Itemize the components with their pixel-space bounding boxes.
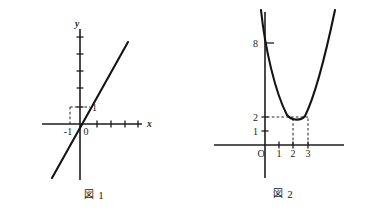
fig2-label-eight: 8 <box>253 38 258 49</box>
fig2-label-two-x: 2 <box>291 148 296 159</box>
fig1-line-series <box>52 42 128 178</box>
fig1-label-one: 1 <box>92 102 97 113</box>
figure-2-caption-glyph: 図 <box>273 185 284 200</box>
fig1-label-origin: 0 <box>84 126 89 137</box>
fig2-label-two-y: 2 <box>253 112 258 123</box>
fig1-x-axis-label: x <box>146 119 152 129</box>
fig2-label-one-y: 1 <box>253 126 258 137</box>
figure-1-caption-number: 1 <box>98 189 105 201</box>
figure-sheet: y x -1 0 1 図1 <box>0 0 378 212</box>
figure-2: 8 2 1 O 1 2 3 図2 <box>189 0 378 212</box>
figure-1-plot: y x -1 0 1 <box>0 0 189 186</box>
fig1-label-neg-one: -1 <box>64 126 72 137</box>
fig2-parabola-series <box>261 10 335 120</box>
fig2-label-origin: O <box>257 148 264 159</box>
figure-1: y x -1 0 1 図1 <box>0 0 189 212</box>
figure-1-caption: 図1 <box>0 186 189 202</box>
figure-1-caption-glyph: 図 <box>84 186 95 201</box>
fig1-y-axis-label: y <box>74 19 80 29</box>
figure-2-caption-number: 2 <box>287 188 294 200</box>
fig2-label-three-x: 3 <box>306 148 311 159</box>
fig2-label-one-x: 1 <box>277 148 282 159</box>
figure-2-caption: 図2 <box>189 185 378 201</box>
figure-2-plot: 8 2 1 O 1 2 3 <box>189 0 378 186</box>
